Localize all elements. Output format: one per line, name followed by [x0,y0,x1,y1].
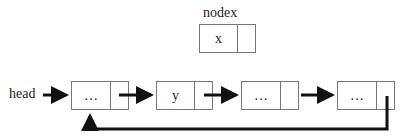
linked-list-diagram: nodex x head … y … … [0,0,402,137]
arrows-layer [0,0,402,137]
return-loop-arrow-icon [90,96,387,129]
